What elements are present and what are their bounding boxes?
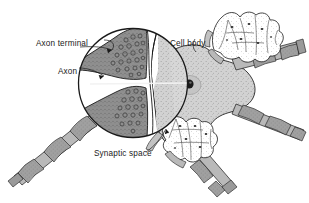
label-axon-terminal: Axon terminal bbox=[36, 39, 88, 48]
neuron-synapse-figure: Axon terminal Axon Cell body Synaptic sp… bbox=[0, 0, 309, 203]
label-axon: Axon bbox=[58, 67, 78, 76]
neuron-diagram: Axon terminal Axon Cell body Synaptic sp… bbox=[0, 0, 309, 203]
label-synaptic-space: Synaptic space bbox=[94, 149, 152, 158]
label-cell-body: Cell body bbox=[170, 39, 206, 48]
terminal-bouton-cluster-upper-right bbox=[208, 12, 283, 64]
nucleolus bbox=[189, 81, 191, 83]
bouton-cluster-outline-upper bbox=[212, 12, 283, 62]
scan-highlight-streak bbox=[90, 83, 188, 84]
